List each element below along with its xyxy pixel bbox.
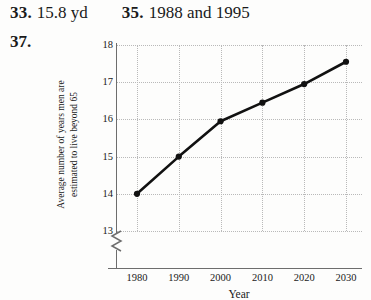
data-point-2010 — [259, 100, 265, 106]
x-tick-label-2020: 2020 — [287, 272, 321, 283]
data-point-2020 — [301, 81, 307, 87]
y-axis-line-lower — [116, 250, 117, 269]
gridline-y-13 — [116, 231, 362, 232]
data-point-1980 — [134, 191, 140, 197]
y-axis-tick-labels: 181716151413 — [92, 40, 113, 240]
data-point-2000 — [218, 118, 224, 124]
x-tick-label-2030: 2030 — [329, 272, 363, 283]
y-tick-label-16: 16 — [93, 114, 113, 124]
answer-item-35: 35.1988 and 1995 — [122, 3, 250, 23]
answer-text-33: 15.8 yd — [37, 3, 88, 22]
y-tick-label-17: 17 — [93, 77, 113, 87]
y-tick-label-18: 18 — [93, 40, 113, 50]
answer-item-33: 33.15.8 yd — [10, 3, 88, 23]
series-polyline — [137, 62, 346, 194]
axis-break-icon — [107, 230, 127, 252]
x-tick-label-2010: 2010 — [245, 272, 279, 283]
answer-row: 33.15.8 yd 35.1988 and 1995 — [10, 3, 371, 29]
x-axis-line — [108, 268, 362, 269]
problem-number-37: 37. — [10, 32, 31, 52]
y-axis-title-line1: Average number of years men are — [55, 42, 68, 247]
y-tick-label-14: 14 — [93, 189, 113, 199]
answer-text-35: 1988 and 1995 — [149, 3, 250, 22]
x-tick-label-1980: 1980 — [120, 272, 154, 283]
y-axis-line — [116, 43, 117, 233]
plot-area — [116, 45, 362, 231]
data-point-1990 — [176, 154, 182, 160]
y-axis-title: Average number of years men are estimate… — [55, 42, 89, 247]
y-axis-title-line2: estimated to live beyond 65 — [68, 42, 81, 247]
data-point-2030 — [343, 59, 349, 65]
data-series-line — [116, 45, 362, 231]
y-tick-label-15: 15 — [93, 152, 113, 162]
answer-number-33: 33. — [10, 3, 32, 22]
answer-number-35: 35. — [122, 3, 144, 22]
line-chart: 181716151413 198019902000201020202030 Ye… — [92, 40, 371, 291]
x-tick-label-1990: 1990 — [162, 272, 196, 283]
x-tick-label-2000: 2000 — [204, 272, 238, 283]
x-axis-title: Year — [116, 288, 362, 300]
